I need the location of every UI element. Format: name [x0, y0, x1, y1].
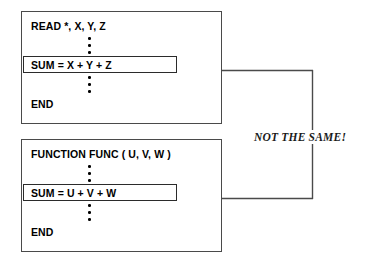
sum-statement-box-function: SUM = U + V + W — [23, 184, 177, 201]
function-statement: FUNCTION FUNC ( U, V, W ) — [31, 148, 171, 160]
sum-statement-read: SUM = X + Y + Z — [31, 59, 112, 71]
ellipsis-function-bottom — [88, 204, 91, 221]
end-statement-read: END — [31, 98, 53, 110]
read-statement: READ *, X, Y, Z — [31, 20, 106, 32]
code-block-read: READ *, X, Y, Z SUM = X + Y + Z END — [21, 11, 222, 124]
sum-statement-function: SUM = U + V + W — [31, 187, 116, 199]
ellipsis-read-bottom — [88, 76, 91, 93]
sum-statement-box-read: SUM = X + Y + Z — [23, 56, 177, 73]
code-block-function: FUNCTION FUNC ( U, V, W ) SUM = U + V + … — [21, 139, 222, 252]
annotation-label: NOT THE SAME! — [252, 130, 348, 144]
ellipsis-read-top — [88, 37, 91, 54]
end-statement-function: END — [31, 226, 53, 238]
ellipsis-function-top — [88, 165, 91, 182]
diagram-canvas: READ *, X, Y, Z SUM = X + Y + Z END FUNC… — [0, 0, 381, 267]
